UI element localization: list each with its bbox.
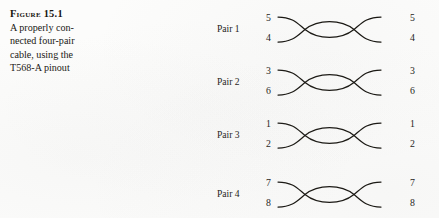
wire-bottom: [278, 75, 381, 95]
wire-top: [278, 70, 381, 90]
wire-bottom: [278, 22, 381, 42]
twisted-pair-wires: [195, 112, 439, 160]
wire-bottom: [278, 128, 381, 148]
figure-caption-block: Figure 15.1 A properly con- nected four-…: [10, 7, 102, 75]
twisted-pair-wires: [195, 6, 439, 54]
pair-row: Pair 2 3 6 3 6: [195, 59, 439, 107]
wire-top: [278, 182, 381, 202]
pair-row: Pair 3 1 2 1 2: [195, 112, 439, 160]
wire-bottom: [278, 187, 381, 207]
twisted-pair-wires: [195, 59, 439, 107]
pair-row: Pair 4 7 8 7 8: [195, 171, 439, 218]
figure-caption-text: A properly con- nected four-pair cable, …: [10, 21, 102, 75]
twisted-pair-wires: [195, 171, 439, 218]
figure-page: Figure 15.1 A properly con- nected four-…: [0, 0, 439, 218]
caption-line: T568-A pinout: [10, 61, 102, 74]
figure-number-label: Figure 15.1: [10, 7, 102, 20]
caption-line: A properly con-: [10, 21, 102, 34]
wire-top: [278, 17, 381, 37]
caption-line: nected four-pair: [10, 34, 102, 47]
wire-top: [278, 123, 381, 143]
caption-line: cable, using the: [10, 48, 102, 61]
wiring-diagram: Pair 1 5 4 5 4 Pair 2 3 6 3 6 Pair 3 1: [195, 0, 439, 218]
pair-row: Pair 1 5 4 5 4: [195, 6, 439, 54]
